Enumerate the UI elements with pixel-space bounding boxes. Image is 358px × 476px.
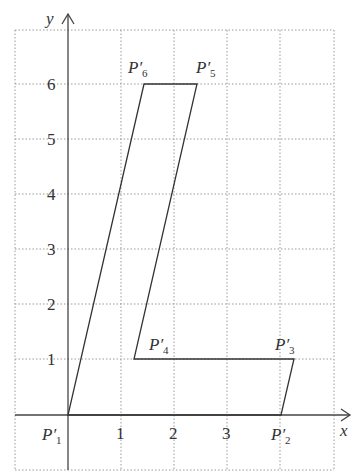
y-tick-1: 1 [47,350,56,369]
axes [15,14,350,470]
x-tick-1: 1 [116,424,125,443]
coordinate-diagram: x y 1 2 3 1 2 3 4 5 6 P′1 P′2 P′3 P′4 P′… [0,0,358,476]
label-p6: P′6 [127,58,148,79]
x-tick-3: 3 [222,424,231,443]
label-p1: P′1 [41,425,62,446]
label-p2: P′2 [270,425,291,446]
label-p5: P′5 [195,58,216,79]
y-tick-3: 3 [47,240,56,259]
y-tick-4: 4 [47,185,56,204]
point-labels: P′1 P′2 P′3 P′4 P′5 P′6 [41,58,295,446]
y-tick-labels: 1 2 3 4 5 6 [47,75,56,369]
x-tick-2: 2 [169,424,178,443]
y-tick-2: 2 [47,295,56,314]
grid [15,30,334,470]
y-tick-5: 5 [47,130,56,149]
y-axis-label: y [44,9,54,28]
x-axis-label: x [339,421,348,440]
label-p3: P′3 [274,335,295,356]
x-tick-labels: 1 2 3 [116,424,231,443]
label-p4: P′4 [148,335,169,356]
y-tick-6: 6 [47,75,56,94]
